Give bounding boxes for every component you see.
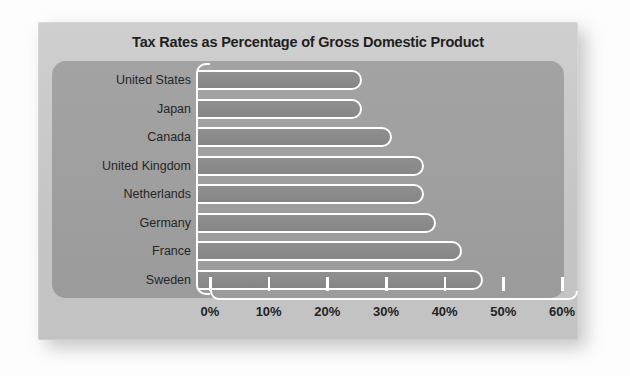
value-axis-tick-labels: 0%10%20%30%40%50%60% (52, 304, 564, 326)
bar-row (198, 99, 550, 119)
bar-row (198, 184, 550, 204)
bar-5 (198, 213, 436, 233)
category-label-3: United Kingdom (52, 160, 197, 173)
bar-row (198, 213, 550, 233)
axis-tick (502, 277, 505, 291)
axis-tick-label: 50% (490, 304, 516, 319)
axis-tick (209, 277, 212, 291)
plot-panel: United States Japan Canada United Kingdo… (52, 61, 564, 298)
bar-2 (198, 127, 392, 147)
bar-3 (198, 156, 424, 176)
category-label-2: Canada (52, 131, 197, 144)
axis-tick (444, 277, 447, 291)
bar-4 (198, 184, 424, 204)
axis-tick (561, 277, 564, 291)
axis-x-baseline (210, 291, 578, 300)
axis-tick-label: 60% (549, 304, 575, 319)
bar-7 (198, 270, 483, 290)
category-label-7: Sweden (52, 274, 197, 287)
bar-row (198, 70, 550, 90)
chart-card: Tax Rates as Percentage of Gross Domesti… (38, 22, 578, 340)
bar-rows (198, 66, 550, 294)
bar-6 (198, 241, 462, 261)
bars-area (198, 66, 550, 294)
axis-tick-label: 10% (256, 304, 282, 319)
axis-tick (326, 277, 329, 291)
chart-title: Tax Rates as Percentage of Gross Domesti… (38, 34, 578, 50)
bar-row (198, 270, 550, 290)
category-label-0: United States (52, 74, 197, 87)
bar-1 (198, 99, 362, 119)
bar-0 (198, 70, 362, 90)
axis-tick (385, 277, 388, 291)
axis-tick-label: 20% (314, 304, 340, 319)
category-label-6: France (52, 245, 197, 258)
axis-tick-label: 30% (373, 304, 399, 319)
axis-tick-label: 0% (201, 304, 220, 319)
chart-page: Tax Rates as Percentage of Gross Domesti… (0, 0, 630, 376)
plot-inner: United States Japan Canada United Kingdo… (52, 61, 564, 298)
bar-row (198, 156, 550, 176)
bar-row (198, 127, 550, 147)
axis-tick-label: 40% (432, 304, 458, 319)
category-label-4: Netherlands (52, 188, 197, 201)
category-axis-labels: United States Japan Canada United Kingdo… (52, 66, 197, 294)
category-label-5: Germany (52, 217, 197, 230)
bar-row (198, 241, 550, 261)
category-label-1: Japan (52, 103, 197, 116)
axis-tick (268, 277, 271, 291)
